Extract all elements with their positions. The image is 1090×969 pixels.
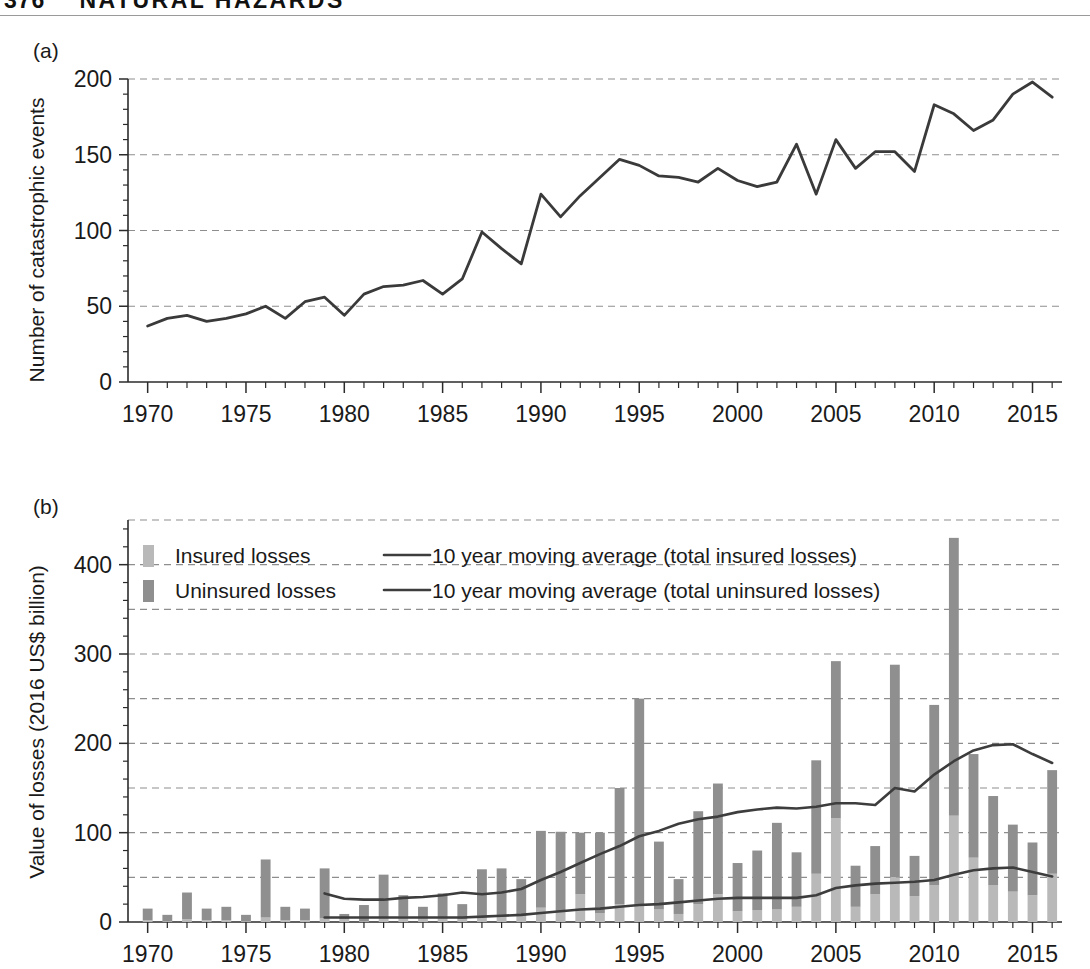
bar-1998-uninsured <box>693 811 703 904</box>
bar-1972-uninsured <box>182 893 192 920</box>
moving-average-line-0 <box>325 868 1053 918</box>
x-tick-label-3: 1985 <box>417 941 468 967</box>
panel-a-gridlines <box>128 79 1062 306</box>
y-tick-label-0: 0 <box>99 369 112 395</box>
bar-2009-uninsured <box>910 856 920 896</box>
bar-2011-insured <box>949 816 959 922</box>
bar-2007-insured <box>870 894 880 922</box>
bar-1974-insured <box>221 920 231 922</box>
bar-1998-insured <box>693 904 703 922</box>
bar-1978-insured <box>300 920 310 922</box>
panel-a-axes <box>119 79 1062 393</box>
bar-2004-insured <box>811 874 821 922</box>
bar-2003-insured <box>792 907 802 922</box>
bar-1976-uninsured <box>261 859 271 917</box>
bar-2016-uninsured <box>1047 770 1057 874</box>
panel-a-yticklabels: 050100150200 <box>74 66 112 395</box>
bar-1993-insured <box>595 913 605 922</box>
bar-1975-uninsured <box>241 915 251 921</box>
panel-a-label: (a) <box>33 39 59 62</box>
bar-2014-insured <box>1008 892 1018 922</box>
panel-a-y-axis-title: Number of catastrophic events <box>25 98 48 383</box>
x-tick-label-0: 1970 <box>122 401 173 427</box>
legend-label-1: Uninsured losses <box>175 579 336 602</box>
bar-2007-uninsured <box>870 846 880 894</box>
bar-2001-uninsured <box>752 851 762 911</box>
bar-2012-uninsured <box>969 754 979 858</box>
x-tick-label-2: 1980 <box>319 401 370 427</box>
legend-swatch-0 <box>143 545 154 567</box>
bar-2015-insured <box>1028 895 1038 922</box>
x-tick-label-1: 1975 <box>220 941 271 967</box>
x-tick-label-5: 1995 <box>614 941 665 967</box>
legend-label-3: 10 year moving average (total uninsured … <box>432 579 880 602</box>
y-tick-label-0: 0 <box>99 909 112 935</box>
x-tick-label-0: 1970 <box>122 941 173 967</box>
x-tick-label-9: 2015 <box>1007 941 1058 967</box>
bar-1971-insured <box>162 921 172 922</box>
y-tick-label-2: 100 <box>74 218 112 244</box>
header-rule <box>0 15 1090 16</box>
panel-b-legend: Insured losses10 year moving average (to… <box>143 544 880 602</box>
bar-1996-insured <box>654 909 664 922</box>
x-tick-label-7: 2005 <box>810 941 861 967</box>
x-tick-label-3: 1985 <box>417 401 468 427</box>
y-tick-label-3: 150 <box>74 142 112 168</box>
panel-a-series <box>148 82 1053 326</box>
x-tick-label-4: 1990 <box>515 941 566 967</box>
bar-2005-insured <box>831 818 841 922</box>
bar-1982-uninsured <box>379 875 389 918</box>
bar-2013-uninsured <box>988 796 998 885</box>
bar-1978-uninsured <box>300 909 310 921</box>
bar-2002-insured <box>772 909 782 922</box>
bar-2002-uninsured <box>772 823 782 910</box>
bar-1971-uninsured <box>162 915 172 921</box>
bar-1996-uninsured <box>654 842 664 910</box>
x-tick-label-1: 1975 <box>220 401 271 427</box>
panel-b-label: (b) <box>33 495 59 518</box>
page-running-head: 376 NATURAL HAZARDS <box>0 0 1090 22</box>
legend-label-0: Insured losses <box>175 544 310 567</box>
y-tick-label-4: 400 <box>74 552 112 578</box>
bar-2001-insured <box>752 910 762 922</box>
legend-swatch-1 <box>143 580 154 602</box>
x-tick-label-9: 2015 <box>1007 401 1058 427</box>
bar-1985-uninsured <box>438 893 448 917</box>
bar-2015-uninsured <box>1028 842 1038 895</box>
running-head-title: NATURAL HAZARDS <box>79 0 344 14</box>
x-tick-label-8: 2010 <box>909 401 960 427</box>
bar-2013-insured <box>988 885 998 922</box>
bar-1987-uninsured <box>477 869 487 915</box>
bar-1995-uninsured <box>634 699 644 906</box>
bar-1989-insured <box>516 916 526 922</box>
bar-2005-uninsured <box>831 661 841 818</box>
panel-b: (b) Value of losses (2016 US$ billion) 0… <box>25 495 1062 967</box>
panel-b-xticklabels: 1970197519801985199019952000200520102015 <box>122 941 1058 967</box>
x-tick-label-6: 2000 <box>712 401 763 427</box>
panel-b-y-axis-title: Value of losses (2016 US$ billion) <box>25 565 48 879</box>
bar-2000-uninsured <box>733 863 743 911</box>
y-tick-label-4: 200 <box>74 66 112 92</box>
bar-1972-insured <box>182 919 192 922</box>
bar-1970-uninsured <box>143 909 153 921</box>
bar-1997-uninsured <box>674 879 684 914</box>
bar-2011-uninsured <box>949 538 959 816</box>
bar-2016-insured <box>1047 874 1057 922</box>
panel-a: (a) Number of catastrophic events 050100… <box>25 39 1062 427</box>
x-tick-label-8: 2010 <box>909 941 960 967</box>
bar-2006-insured <box>851 907 861 922</box>
bar-1990-uninsured <box>536 831 546 908</box>
panel-a-events-line <box>148 82 1053 326</box>
bar-1980-insured <box>339 919 349 922</box>
bar-1988-insured <box>497 917 507 922</box>
bar-1981-insured <box>359 921 369 922</box>
bar-1973-uninsured <box>202 909 212 921</box>
page-folio: 376 <box>4 0 45 14</box>
bar-1970-insured <box>143 920 153 922</box>
x-tick-label-6: 2000 <box>712 941 763 967</box>
y-tick-label-1: 100 <box>74 820 112 846</box>
x-tick-label-7: 2005 <box>810 401 861 427</box>
bar-1984-uninsured <box>418 907 428 918</box>
x-tick-label-2: 1980 <box>319 941 370 967</box>
bar-1976-insured <box>261 918 271 922</box>
